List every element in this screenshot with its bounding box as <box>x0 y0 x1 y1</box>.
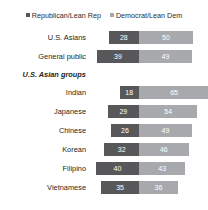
bar-row-label: Indian <box>0 89 93 96</box>
bar-segment-democrat: 43 <box>139 162 185 175</box>
bar-value-democrat: 43 <box>158 165 166 172</box>
legend-item-republican: Republican/Lean Rep <box>26 12 101 19</box>
bar-track: 39 49 <box>93 47 208 66</box>
bar-value-republican: 35 <box>116 184 124 191</box>
bar-value-republican: 32 <box>118 146 126 153</box>
bar-segment-republican: 35 <box>101 181 139 194</box>
stacked-bar: 35 36 <box>101 181 178 194</box>
bar-segment-democrat: 50 <box>139 31 193 44</box>
group-subheading-label: U.S. Asian groups <box>0 71 93 78</box>
bar-row: General public 39 49 <box>0 47 208 66</box>
legend-label-republican: Republican/Lean Rep <box>32 12 101 19</box>
bar-row: Indian 18 65 <box>0 83 208 102</box>
bar-row-label: General public <box>0 53 93 60</box>
chart-rows: U.S. Asians 28 50 General public 39 <box>0 28 208 197</box>
bar-row-label: Vietnamese <box>0 184 93 191</box>
bar-row: Filipino 40 43 <box>0 159 208 178</box>
stacked-bar: 18 65 <box>120 86 208 99</box>
bar-value-democrat: 49 <box>162 127 170 134</box>
legend-swatch-republican-icon <box>26 13 30 17</box>
bar-track: 40 43 <box>93 159 208 178</box>
bar-track: 26 49 <box>93 121 208 140</box>
party-identification-bar-chart: Republican/Lean Rep Democrat/Lean Dem U.… <box>0 0 208 210</box>
bar-value-republican: 18 <box>125 89 133 96</box>
bar-value-democrat: 46 <box>160 146 168 153</box>
bar-value-democrat: 49 <box>162 53 170 60</box>
stacked-bar: 40 43 <box>96 162 186 175</box>
bar-value-democrat: 36 <box>155 184 163 191</box>
bar-value-republican: 39 <box>114 53 122 60</box>
group-subheading: U.S. Asian groups <box>0 66 208 83</box>
bar-track: 32 46 <box>93 140 208 159</box>
bar-segment-republican: 18 <box>120 86 139 99</box>
bar-track: 35 36 <box>93 178 208 197</box>
bar-row: U.S. Asians 28 50 <box>0 28 208 47</box>
bar-value-democrat: 54 <box>164 108 172 115</box>
bar-track: 18 65 <box>93 83 208 102</box>
bar-value-republican: 29 <box>119 108 127 115</box>
legend-item-democrat: Democrat/Lean Dem <box>110 12 182 19</box>
stacked-bar: 28 50 <box>109 31 193 44</box>
bar-row: Korean 32 46 <box>0 140 208 159</box>
bar-row-label: Korean <box>0 146 93 153</box>
bar-value-republican: 40 <box>113 165 121 172</box>
bar-value-republican: 26 <box>121 127 129 134</box>
bar-track: 28 50 <box>93 28 208 47</box>
chart-legend: Republican/Lean Rep Democrat/Lean Dem <box>0 0 208 22</box>
bar-value-republican: 28 <box>120 34 128 41</box>
bar-segment-democrat: 46 <box>139 143 189 156</box>
bar-segment-republican: 40 <box>96 162 139 175</box>
bar-segment-democrat: 65 <box>139 86 208 99</box>
bar-segment-democrat: 54 <box>139 105 197 118</box>
bar-row-label: Filipino <box>0 165 93 172</box>
bar-row: Japanese 29 54 <box>0 102 208 121</box>
bar-row-label: U.S. Asians <box>0 34 93 41</box>
bar-segment-democrat: 49 <box>139 124 192 137</box>
stacked-bar: 39 49 <box>97 50 192 63</box>
bar-row-label: Chinese <box>0 127 93 134</box>
bar-value-democrat: 50 <box>162 34 170 41</box>
bar-segment-democrat: 49 <box>139 50 192 63</box>
bar-row-label: Japanese <box>0 108 93 115</box>
bar-segment-republican: 29 <box>108 105 139 118</box>
stacked-bar: 29 54 <box>108 105 198 118</box>
bar-track: 29 54 <box>93 102 208 121</box>
bar-segment-republican: 28 <box>109 31 139 44</box>
bar-segment-republican: 39 <box>97 50 139 63</box>
bar-segment-republican: 32 <box>104 143 139 156</box>
stacked-bar: 26 49 <box>111 124 192 137</box>
bar-segment-republican: 26 <box>111 124 139 137</box>
legend-label-democrat: Democrat/Lean Dem <box>116 12 182 19</box>
bar-row: Vietnamese 35 36 <box>0 178 208 197</box>
bar-segment-democrat: 36 <box>139 181 178 194</box>
legend-swatch-democrat-icon <box>110 13 114 17</box>
stacked-bar: 32 46 <box>104 143 188 156</box>
bar-value-democrat: 65 <box>170 89 178 96</box>
bar-row: Chinese 26 49 <box>0 121 208 140</box>
